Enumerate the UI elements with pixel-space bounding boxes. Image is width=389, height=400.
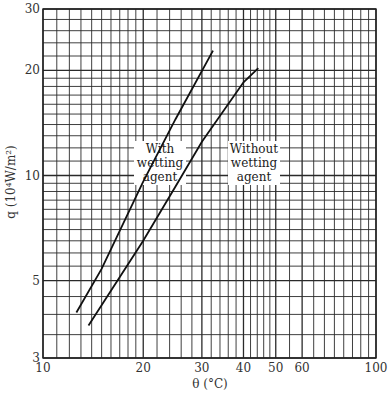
y-tick-label: 5 xyxy=(32,274,40,288)
grid xyxy=(43,9,376,358)
log-log-chart: WithwettingagentWithoutwettingagent 1020… xyxy=(0,0,389,400)
y-tick-label: 30 xyxy=(25,2,40,16)
x-tick-label: 50 xyxy=(268,361,283,375)
y-tick-label: 10 xyxy=(25,169,40,183)
y-tick-label: 3 xyxy=(32,351,40,365)
x-tick-label: 60 xyxy=(294,361,309,375)
x-axis-label: θ (°C) xyxy=(192,377,228,391)
x-tick-label: 100 xyxy=(365,361,388,375)
x-tick-label: 30 xyxy=(194,361,209,375)
y-tick-label: 20 xyxy=(25,63,40,77)
annotation-label: wetting xyxy=(231,156,278,170)
tick-labels: 10203040506010035102030 xyxy=(25,2,388,375)
annotation-label: agent xyxy=(237,170,272,184)
curve-without-wetting-agent xyxy=(89,68,259,325)
y-axis-label: q (10⁴W/m²) xyxy=(4,145,18,219)
curves xyxy=(76,51,258,326)
annotation-label: wetting xyxy=(137,156,184,170)
x-tick-label: 40 xyxy=(236,361,251,375)
annotation-label: Without xyxy=(230,142,278,156)
x-tick-label: 20 xyxy=(136,361,151,375)
